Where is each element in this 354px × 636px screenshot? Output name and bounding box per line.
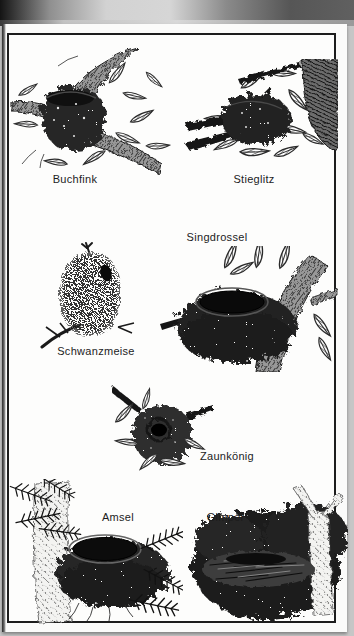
scanned-book-page: Buchfink Stieglitz Schwanzmeise Singdros…	[0, 0, 354, 636]
page-frame: Buchfink Stieglitz Schwanzmeise Singdros…	[7, 33, 336, 623]
book-page: Buchfink Stieglitz Schwanzmeise Singdros…	[2, 24, 347, 632]
label-buchfink: Buchfink	[53, 173, 98, 185]
label-amsel: Amsel	[102, 511, 134, 523]
scan-top-edge-shadow	[0, 0, 354, 20]
illustration-stieglitz-nest	[182, 59, 338, 175]
page-left-edge-shadow	[2, 24, 6, 632]
label-gimpel: Gimpel	[207, 511, 244, 523]
illustration-buchfink-nest	[10, 46, 172, 178]
label-zaunkoenig: Zaunkönig	[200, 450, 254, 462]
illustration-singdrossel-nest	[160, 246, 338, 372]
label-schwanzmeise: Schwanzmeise	[57, 345, 135, 357]
label-stieglitz: Stieglitz	[233, 173, 274, 185]
illustration-amsel-nest	[9, 479, 183, 625]
illustration-zaunkoenig-nest	[107, 384, 215, 480]
label-singdrossel: Singdrossel	[187, 231, 248, 243]
illustration-gimpel-nest	[186, 481, 348, 625]
illustration-schwanzmeise-nest	[40, 241, 140, 349]
